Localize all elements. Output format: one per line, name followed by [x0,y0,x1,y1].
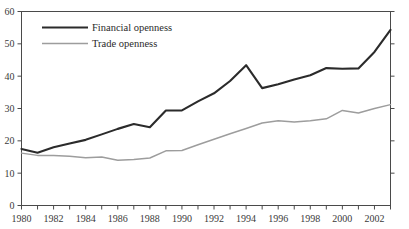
legend-label-trade-openness: Trade openness [92,38,157,49]
x-tick-label: 2000 [332,213,352,224]
x-tick-label: 1996 [268,213,288,224]
x-tick-label: 1982 [44,213,64,224]
y-tick-label: 40 [5,71,15,82]
x-tick-label: 1990 [172,213,192,224]
y-tick-label: 10 [5,168,15,179]
x-tick-label: 1998 [300,213,320,224]
y-axis-ticks-right [391,12,395,174]
x-tick-label: 1988 [140,213,160,224]
x-axis-labels: 1980198219841986198819901992199419961998… [12,213,385,224]
x-tick-label: 1994 [236,213,256,224]
y-axis-labels: 0102030405060 [5,6,15,211]
legend-label-financial-openness: Financial openness [92,22,172,33]
y-tick-label: 20 [5,135,15,146]
y-tick-label: 60 [5,6,15,17]
x-axis-ticks [22,206,391,210]
plot-frame [22,12,391,206]
line-chart: 0102030405060 19801982198419861988199019… [0,0,409,229]
x-tick-label: 2002 [364,213,384,224]
chart-figure: 0102030405060 19801982198419861988199019… [0,0,409,229]
x-tick-label: 1984 [76,213,96,224]
chart-legend: Financial openness Trade openness [42,22,172,49]
x-tick-label: 1980 [12,213,32,224]
series-line-financial-openness [22,30,391,153]
series-line-trade-openness [22,105,391,161]
y-tick-label: 50 [5,38,15,49]
y-axis-ticks-left [18,12,22,206]
x-tick-label: 1992 [204,213,224,224]
x-tick-label: 1986 [108,213,128,224]
y-tick-label: 0 [10,200,15,211]
y-tick-label: 30 [5,103,15,114]
